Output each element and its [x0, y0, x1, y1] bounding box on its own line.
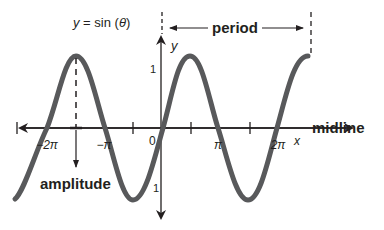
sine-diagram: y = sin (θ) period y 1 1 0 x −2π −π π 2π… [0, 0, 384, 230]
x-tick-label-pi: π [214, 138, 223, 152]
x-axis-label: x [293, 134, 301, 148]
origin-label: 0 [149, 134, 156, 148]
period-label: period [212, 19, 258, 36]
y-tick-label-1: 1 [150, 63, 156, 75]
y-axis-label: y [170, 38, 179, 53]
amplitude-label: amplitude [40, 175, 111, 192]
x-tick-label-neg2pi: −2π [36, 138, 59, 152]
x-tick-label-negpi: −π [96, 138, 112, 152]
y-tick-label-neg1: 1 [153, 182, 159, 194]
midline-label: midline [312, 119, 365, 136]
x-tick-label-2pi: 2π [270, 138, 287, 152]
equation-label: y = sin (θ) [72, 15, 130, 30]
